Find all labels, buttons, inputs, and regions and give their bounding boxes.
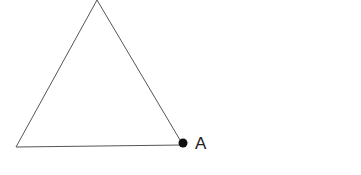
point-a-dot [179,139,188,148]
point-a-label: A [195,134,206,154]
triangle-diagram [0,0,361,175]
triangle [16,0,183,147]
